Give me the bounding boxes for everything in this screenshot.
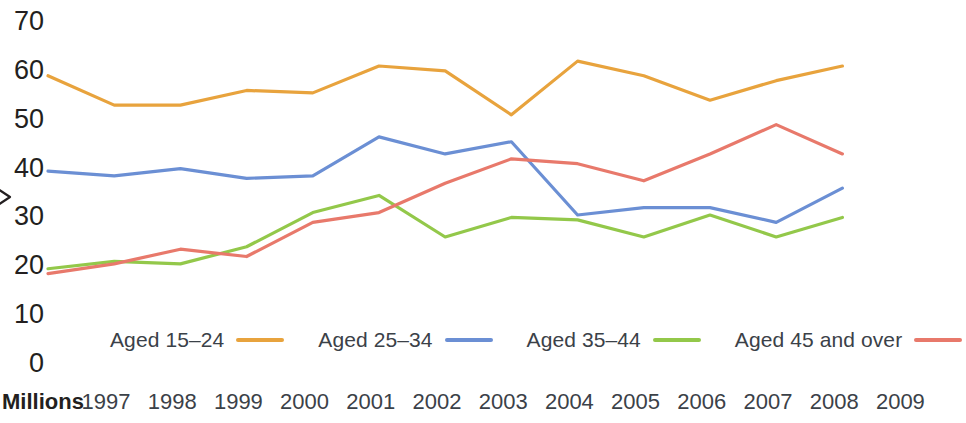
x-axis-tick-2007: 2007 bbox=[744, 388, 793, 417]
series-line-0 bbox=[48, 61, 842, 115]
legend-label: Aged 45 and over bbox=[735, 328, 902, 352]
legend-item-0[interactable]: Aged 15–24 bbox=[110, 328, 318, 352]
x-axis-tick-2006: 2006 bbox=[677, 388, 726, 417]
x-axis-tick-2001: 2001 bbox=[346, 388, 395, 417]
legend-item-1[interactable]: Aged 25–34 bbox=[318, 328, 526, 352]
legend-item-3[interactable]: Aged 45 and over bbox=[735, 328, 966, 352]
x-axis-tick-2003: 2003 bbox=[479, 388, 528, 417]
legend-label: Aged 25–34 bbox=[318, 328, 432, 352]
legend-item-2[interactable]: Aged 35–44 bbox=[527, 328, 735, 352]
series-line-3 bbox=[48, 125, 842, 274]
x-axis-tick-2009: 2009 bbox=[876, 388, 925, 417]
x-axis-tick-2008: 2008 bbox=[810, 388, 859, 417]
series-line-2 bbox=[48, 195, 842, 268]
x-axis-tick-1997: 1997 bbox=[82, 388, 131, 417]
legend-swatch bbox=[653, 338, 701, 342]
x-axis-tick-2004: 2004 bbox=[545, 388, 594, 417]
x-axis-tick-1998: 1998 bbox=[148, 388, 197, 417]
x-axis-unit-label: Millions bbox=[2, 388, 84, 417]
legend-label: Aged 15–24 bbox=[110, 328, 224, 352]
legend-swatch bbox=[914, 338, 962, 342]
x-axis-tick-1999: 1999 bbox=[214, 388, 263, 417]
legend-swatch bbox=[236, 338, 284, 342]
x-axis: Millions 1997199819992000200120022003200… bbox=[0, 388, 944, 423]
chart-legend: Aged 15–24Aged 25–34Aged 35–44Aged 45 an… bbox=[0, 322, 944, 358]
x-axis-tick-2000: 2000 bbox=[280, 388, 329, 417]
legend-swatch bbox=[445, 338, 493, 342]
legend-label: Aged 35–44 bbox=[527, 328, 641, 352]
x-axis-tick-2002: 2002 bbox=[413, 388, 462, 417]
x-axis-tick-2005: 2005 bbox=[611, 388, 660, 417]
